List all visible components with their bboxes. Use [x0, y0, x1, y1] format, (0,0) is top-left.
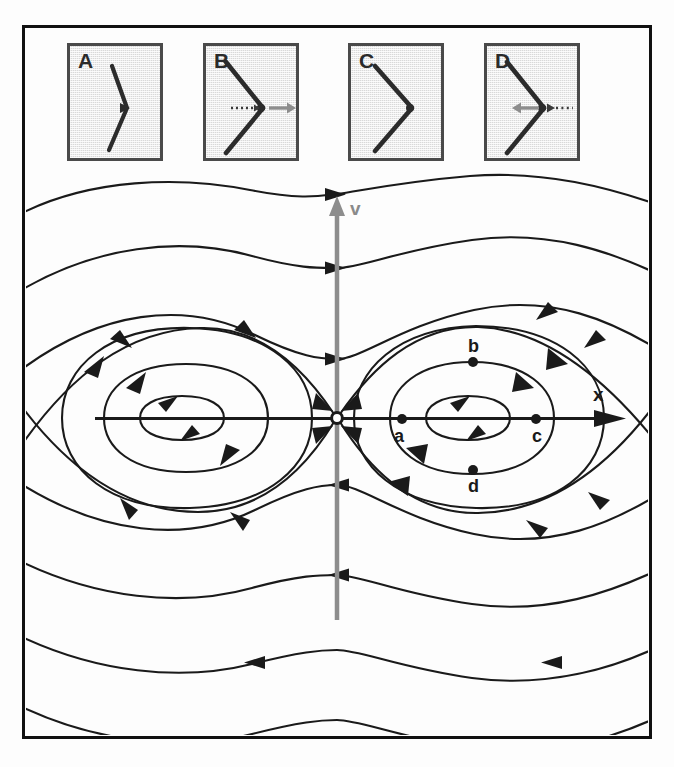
- point-a-label: a: [394, 426, 404, 447]
- saddle-point-marker: [332, 413, 343, 424]
- point-b-marker[interactable]: [468, 357, 478, 367]
- v-axis-label: v: [350, 198, 361, 220]
- point-c-marker[interactable]: [531, 414, 541, 424]
- phase-portrait: .orb{fill:none;stroke:#1a1a1a;stroke-wid…: [0, 0, 674, 767]
- point-b-label: b: [468, 336, 479, 357]
- point-d-marker[interactable]: [468, 465, 478, 475]
- figure-root: A B C D: [0, 0, 674, 767]
- point-c-label: c: [532, 426, 542, 447]
- x-axis: [95, 410, 626, 427]
- point-a-marker[interactable]: [397, 414, 407, 424]
- point-d-label: d: [468, 476, 479, 497]
- x-axis-label: x: [593, 384, 604, 406]
- v-axis: [329, 196, 345, 620]
